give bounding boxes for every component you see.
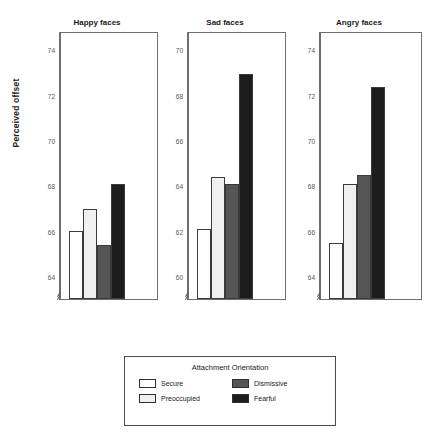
bar-fearful bbox=[239, 74, 253, 299]
y-tick-label: 68 bbox=[48, 183, 55, 190]
y-tick-label: 64 bbox=[48, 274, 55, 281]
bar-dismissive bbox=[357, 175, 371, 299]
legend-item: Secure bbox=[139, 379, 228, 388]
legend-item: Preoccupied bbox=[139, 394, 228, 403]
y-tick-label: 74 bbox=[308, 47, 315, 54]
bar-preoccupied bbox=[211, 177, 225, 299]
legend-title: Attachment Orientation bbox=[125, 363, 335, 372]
y-tick-label: 72 bbox=[48, 92, 55, 99]
bar-secure bbox=[197, 229, 211, 299]
panel-title: Sad faces bbox=[164, 18, 286, 27]
plot-area bbox=[188, 32, 286, 300]
y-tick-label: 72 bbox=[308, 92, 315, 99]
legend-label: Fearful bbox=[254, 395, 276, 402]
y-tick-label: 68 bbox=[176, 92, 183, 99]
figure: Perceived offset Happy faces 64666870727… bbox=[0, 0, 441, 444]
bar-secure bbox=[329, 243, 343, 299]
y-tick-label: 70 bbox=[176, 47, 183, 54]
y-tick-label: 62 bbox=[176, 228, 183, 235]
y-tick-label: 70 bbox=[48, 138, 55, 145]
swatch-preoccupied-icon bbox=[139, 394, 156, 403]
legend-label: Preoccupied bbox=[161, 395, 200, 402]
bar-secure bbox=[69, 231, 83, 299]
plot-area bbox=[60, 32, 158, 300]
y-tick-label: 66 bbox=[176, 138, 183, 145]
panel-angry-faces: Angry faces 646668707274 bbox=[296, 18, 422, 318]
bar-group bbox=[321, 33, 421, 299]
legend: Attachment Orientation SecureDismissiveP… bbox=[124, 356, 336, 426]
legend-label: Secure bbox=[161, 380, 183, 387]
y-tick-label: 70 bbox=[308, 138, 315, 145]
legend-item: Fearful bbox=[232, 394, 321, 403]
y-tick-label: 74 bbox=[48, 47, 55, 54]
panel-title: Happy faces bbox=[36, 18, 158, 27]
y-tick-label: 66 bbox=[308, 228, 315, 235]
y-tick-label: 64 bbox=[308, 274, 315, 281]
y-tick-label: 66 bbox=[48, 228, 55, 235]
y-tick-label: 60 bbox=[176, 274, 183, 281]
bar-group bbox=[189, 33, 285, 299]
panel-sad-faces: Sad faces 606264666870 bbox=[164, 18, 286, 318]
bar-dismissive bbox=[97, 245, 111, 299]
swatch-dismissive-icon bbox=[232, 379, 249, 388]
swatch-secure-icon bbox=[139, 379, 156, 388]
panel-happy-faces: Happy faces 646668707274 bbox=[36, 18, 158, 318]
swatch-fearful-icon bbox=[232, 394, 249, 403]
y-axis-label: Perceived offset bbox=[11, 43, 21, 183]
panel-title: Angry faces bbox=[296, 18, 422, 27]
legend-items: SecureDismissivePreoccupiedFearful bbox=[125, 379, 335, 403]
y-tick-label: 64 bbox=[176, 183, 183, 190]
plot-area bbox=[320, 32, 422, 300]
bar-fearful bbox=[371, 87, 385, 299]
legend-item: Dismissive bbox=[232, 379, 321, 388]
bar-preoccupied bbox=[83, 209, 97, 299]
bar-dismissive bbox=[225, 184, 239, 299]
bar-preoccupied bbox=[343, 184, 357, 299]
legend-label: Dismissive bbox=[254, 380, 287, 387]
bar-fearful bbox=[111, 184, 125, 299]
y-tick-label: 68 bbox=[308, 183, 315, 190]
bar-group bbox=[61, 33, 157, 299]
